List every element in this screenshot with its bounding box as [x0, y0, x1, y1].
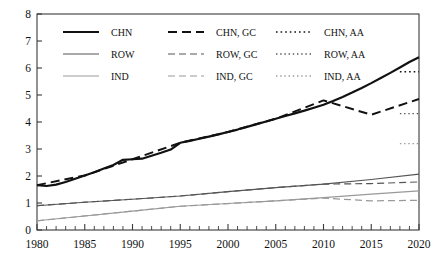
series-line-chn-gc: [37, 99, 419, 185]
x-tick-label: 2000: [217, 238, 240, 250]
legend-label-chn-gc: CHN, GC: [216, 27, 256, 38]
x-tick-label: 2020: [408, 238, 431, 250]
legend-label-chn-aa: CHN, AA: [324, 27, 365, 38]
x-axis-ticks: [37, 224, 419, 230]
y-tick-label: 5: [25, 89, 31, 101]
legend-label-row: ROW: [111, 49, 135, 60]
x-tick-label: 2015: [360, 238, 383, 250]
y-tick-label: 4: [25, 116, 31, 128]
x-tick-label: 2005: [264, 238, 287, 250]
legend-label-row-gc: ROW, GC: [216, 49, 258, 60]
axis-frame: [37, 14, 419, 230]
legend-label-chn: CHN: [111, 27, 132, 38]
x-tick-label: 1980: [26, 238, 49, 250]
x-tick-label: 1990: [121, 238, 144, 250]
series-line-row: [37, 174, 419, 206]
legend-label-ind-aa: IND, AA: [324, 71, 361, 82]
y-tick-label: 7: [25, 35, 31, 47]
y-tick-label: 3: [25, 143, 31, 155]
y-tick-label: 0: [25, 224, 31, 236]
line-chart: 012345678 198019851990199520002005201020…: [0, 0, 436, 264]
y-tick-label: 6: [25, 62, 31, 74]
y-tick-label: 1: [25, 197, 31, 209]
chart-legend: CHNCHN, GCCHN, AAROWROW, GCROW, AAINDIND…: [63, 27, 366, 82]
legend-label-ind: IND: [111, 71, 129, 82]
x-tick-label: 1995: [169, 238, 192, 250]
series-line-ind: [37, 191, 419, 221]
legend-label-row-aa: ROW, AA: [324, 49, 366, 60]
x-tick-label: 1985: [73, 238, 96, 250]
series-line-row-gc: [37, 182, 419, 206]
x-tick-label: 2010: [312, 238, 335, 250]
y-tick-label: 8: [25, 8, 31, 20]
x-axis-labels: 198019851990199520002005201020152020: [26, 238, 431, 250]
chart-canvas: 012345678 198019851990199520002005201020…: [0, 0, 436, 264]
y-tick-label: 2: [25, 170, 31, 182]
y-axis-ticks: [37, 14, 42, 230]
legend-label-ind-gc: IND, GC: [216, 71, 253, 82]
y-axis-labels: 012345678: [25, 8, 31, 236]
